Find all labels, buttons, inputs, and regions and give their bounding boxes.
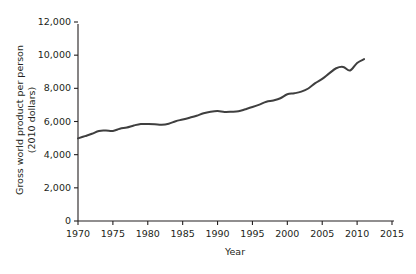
x-tick-label: 2010 bbox=[345, 229, 369, 239]
x-tick-label: 1995 bbox=[240, 229, 264, 239]
y-axis-title: Gross world product per person (2010 dol… bbox=[14, 20, 37, 220]
x-axis-ticks bbox=[78, 221, 392, 225]
x-tick-label: 2000 bbox=[275, 229, 299, 239]
x-tick-label: 1975 bbox=[101, 229, 125, 239]
x-tick-label: 1985 bbox=[171, 229, 195, 239]
x-tick-label: 1980 bbox=[136, 229, 160, 239]
chart-container: 02,0004,0006,0008,00010,00012,000 197019… bbox=[0, 0, 416, 274]
y-axis-ticks bbox=[74, 22, 78, 221]
x-tick-label: 2005 bbox=[310, 229, 334, 239]
x-tick-label: 1970 bbox=[66, 229, 90, 239]
data-series-line bbox=[78, 59, 364, 138]
x-axis-title: Year bbox=[78, 246, 392, 257]
x-tick-label: 1990 bbox=[205, 229, 229, 239]
x-tick-label: 2015 bbox=[380, 229, 404, 239]
